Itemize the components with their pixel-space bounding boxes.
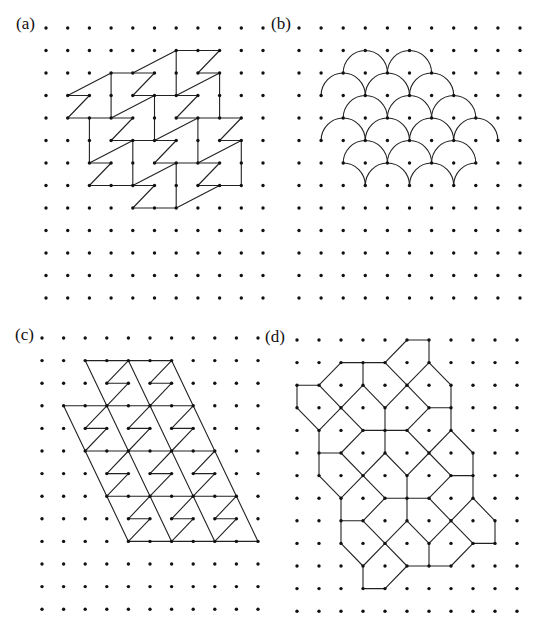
lattice-dot: [256, 336, 259, 339]
lattice-edge: [128, 406, 150, 429]
lattice-edge: [363, 498, 385, 521]
panel-label-d: (d): [265, 328, 285, 345]
lattice-dot: [196, 116, 199, 119]
lattice-dot: [339, 587, 342, 590]
lattice-dot: [518, 251, 521, 254]
lattice-dot: [44, 296, 47, 299]
lattice-dot: [317, 474, 320, 477]
lattice-edge: [407, 385, 429, 408]
lattice-dot: [449, 338, 452, 341]
lattice-dot: [44, 26, 47, 29]
lattice-dot: [256, 495, 259, 498]
scale-arc: [365, 118, 409, 141]
lattice-dot: [471, 474, 474, 477]
lattice-dot: [109, 184, 112, 187]
lattice-dot: [471, 564, 474, 567]
lattice-dot: [474, 139, 477, 142]
lattice-dot: [297, 274, 300, 277]
lattice-dot: [88, 26, 91, 29]
scale-arc: [387, 141, 431, 164]
lattice-dot: [297, 116, 300, 119]
lattice-dot: [493, 429, 496, 432]
lattice-edge: [89, 163, 111, 186]
lattice-dot: [153, 139, 156, 142]
lattice-dot: [44, 116, 47, 119]
lattice-dot: [240, 274, 243, 277]
lattice-dot: [127, 540, 130, 543]
lattice-dot: [235, 427, 238, 430]
lattice-dot: [339, 406, 342, 409]
panel-b-diagram: [297, 26, 521, 299]
lattice-dot: [339, 564, 342, 567]
lattice-edge: [385, 566, 407, 589]
lattice-dot: [408, 139, 411, 142]
lattice-dot: [430, 139, 433, 142]
lattice-dot: [62, 472, 65, 475]
lattice-dot: [405, 564, 408, 567]
lattice-edge: [68, 73, 111, 96]
lattice-dot: [430, 251, 433, 254]
lattice-dot: [84, 382, 87, 385]
lattice-dot: [62, 608, 65, 611]
lattice-dot: [127, 608, 130, 611]
lattice-dot: [383, 474, 386, 477]
lattice-dot: [261, 71, 264, 74]
lattice-dot: [256, 449, 259, 452]
lattice-edge: [363, 521, 385, 544]
lattice-dot: [317, 451, 320, 454]
lattice-dot: [62, 359, 65, 362]
lattice-dot: [84, 517, 87, 520]
lattice-dot: [342, 184, 345, 187]
lattice-dot: [364, 251, 367, 254]
lattice-dot: [493, 361, 496, 364]
lattice-dot: [109, 116, 112, 119]
lattice-dot: [405, 451, 408, 454]
lattice-dot: [170, 427, 173, 430]
lattice-dot: [213, 449, 216, 452]
lattice-dot: [175, 251, 178, 254]
lattice-edge: [451, 498, 473, 521]
lattice-dot: [240, 161, 243, 164]
lattice-edge: [341, 453, 363, 476]
lattice-dot: [342, 49, 345, 52]
lattice-dot: [218, 184, 221, 187]
lattice-dot: [383, 384, 386, 387]
lattice-dot: [405, 474, 408, 477]
lattice-dot: [196, 251, 199, 254]
lattice-dot: [297, 229, 300, 232]
lattice-dot: [342, 94, 345, 97]
lattice-edge: [85, 406, 107, 429]
lattice-dot: [40, 495, 43, 498]
lattice-dot: [109, 206, 112, 209]
lattice-dot: [131, 94, 134, 97]
lattice-dot: [408, 71, 411, 74]
lattice-edge: [429, 453, 451, 476]
lattice-edge: [407, 521, 429, 544]
lattice-dot: [493, 519, 496, 522]
lattice-edge: [107, 474, 129, 497]
lattice-dot: [109, 251, 112, 254]
lattice-dot: [175, 274, 178, 277]
lattice-edge: [176, 96, 198, 119]
lattice-dot: [84, 336, 87, 339]
lattice-dot: [40, 472, 43, 475]
lattice-dot: [84, 449, 87, 452]
lattice-dot: [515, 361, 518, 364]
lattice-dot: [427, 384, 430, 387]
lattice-dot: [364, 139, 367, 142]
lattice-dot: [342, 251, 345, 254]
lattice-dot: [148, 540, 151, 543]
lattice-dot: [213, 517, 216, 520]
lattice-dot: [471, 519, 474, 522]
lattice-dot: [474, 94, 477, 97]
lattice-dot: [105, 472, 108, 475]
lattice-dot: [427, 497, 430, 500]
lattice-dot: [66, 71, 69, 74]
lattice-dot: [66, 139, 69, 142]
lattice-dot: [361, 542, 364, 545]
lattice-dot: [131, 161, 134, 164]
lattice-dot: [408, 184, 411, 187]
lattice-dot: [44, 71, 47, 74]
lattice-dot: [196, 139, 199, 142]
lattice-edge: [155, 141, 177, 164]
